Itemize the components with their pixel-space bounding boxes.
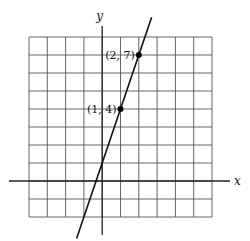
coordinate-plane: x y (1, 4) (2, 7) [0, 0, 250, 241]
x-axis-label: x [234, 174, 241, 188]
point-1-4 [118, 106, 124, 112]
grid [29, 37, 212, 217]
point-2-7-label: (2, 7) [105, 49, 135, 62]
point-1-4-label: (1, 4) [87, 103, 117, 116]
y-axis-label: y [95, 9, 103, 23]
point-2-7 [136, 52, 142, 58]
